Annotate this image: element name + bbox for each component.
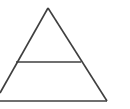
triangle-right-side-line — [48, 8, 107, 101]
triangle-left-side-line — [0, 8, 48, 93]
triangle-diagram — [0, 0, 130, 109]
triangle-stroke-group — [0, 8, 107, 101]
figure-canvas — [0, 0, 130, 109]
